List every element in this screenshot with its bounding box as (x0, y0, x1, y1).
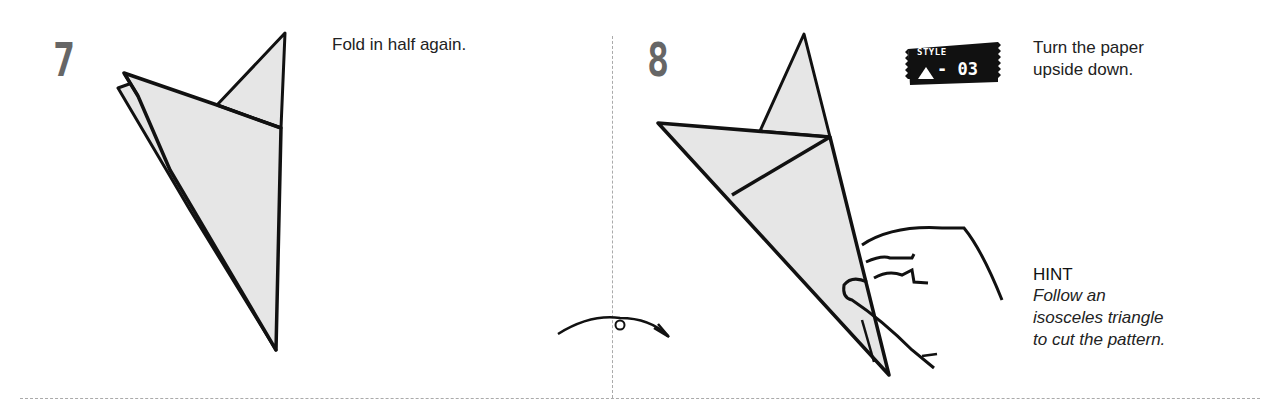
hint-block: HINT Follow an isosceles triangle to cut… (1033, 265, 1165, 351)
hint-line-2: isosceles triangle (1033, 307, 1165, 329)
step-7-caption: Fold in half again. (332, 34, 466, 56)
style-badge: STYLE - 03 (904, 37, 1002, 87)
style-badge-label: STYLE (917, 47, 947, 57)
hint-line-3: to cut the pattern. (1033, 329, 1165, 351)
step-8-caption: Turn the paper upside down. (1033, 37, 1144, 81)
hint-title: HINT (1033, 265, 1165, 285)
step-7-folded-paper-illustration (0, 0, 612, 398)
step-8-caption-line-1: Turn the paper (1033, 37, 1144, 59)
step-8-caption-line-2: upside down. (1033, 59, 1144, 81)
hint-line-1: Follow an (1033, 285, 1165, 307)
style-badge-code: - 03 (937, 59, 978, 79)
section-divider (20, 398, 1260, 399)
